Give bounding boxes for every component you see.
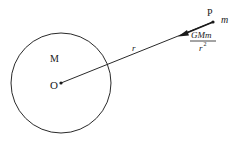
distance-label: r [132, 43, 136, 53]
gravity-diagram: O M r P m GMm r 2 [0, 0, 235, 142]
center-label: O [50, 79, 58, 91]
center-point-o [59, 81, 62, 84]
point-p [211, 20, 214, 23]
point-mass-label: m [221, 14, 228, 25]
force-denominator: r [199, 43, 203, 53]
force-arrowhead-icon [178, 30, 189, 37]
mass-label: M [50, 53, 59, 64]
force-denominator-exponent: 2 [204, 41, 207, 47]
force-numerator: GMm [191, 30, 212, 40]
point-label: P [207, 7, 213, 18]
